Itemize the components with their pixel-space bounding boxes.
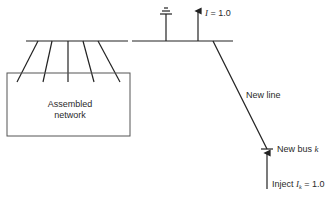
injection-label: Inject Ik = 1.0	[272, 179, 324, 190]
network-diagram: Assembled network I = 1.0 New line New b…	[0, 0, 336, 199]
assembled-network-label-line2: network	[54, 110, 86, 120]
assembled-network-box: Assembled network	[7, 73, 130, 136]
reference-current-label: I = 1.0	[204, 8, 231, 18]
network-connections	[17, 41, 120, 82]
new-line-label: New line	[246, 90, 281, 100]
assembled-network-label-line1: Assembled	[48, 99, 93, 109]
new-bus-label: New bus k	[277, 144, 320, 154]
ground-icon	[160, 8, 172, 41]
